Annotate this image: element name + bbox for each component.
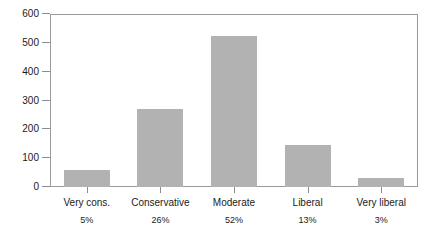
y-axis-tick-label: 600 xyxy=(22,8,39,20)
y-axis-tick-mark xyxy=(42,13,50,14)
x-axis-tick: Liberal13% xyxy=(271,187,345,242)
x-axis-tick-mark xyxy=(87,187,88,193)
x-axis-percent-label: 26% xyxy=(151,215,169,226)
y-axis: 0100200300400500600 xyxy=(0,0,50,242)
y-axis-tick-label: 0 xyxy=(33,181,39,193)
x-axis-tick-mark xyxy=(160,187,161,193)
x-axis-tick-mark xyxy=(308,187,309,193)
x-axis-category-label: Liberal xyxy=(293,197,323,209)
x-axis-tick-mark xyxy=(234,187,235,193)
x-axis-category-label: Conservative xyxy=(131,197,189,209)
x-axis-percent-label: 3% xyxy=(375,215,388,226)
y-axis-tick-mark xyxy=(42,128,50,129)
y-axis-tick-label: 200 xyxy=(22,123,39,135)
bars-layer xyxy=(50,14,418,187)
x-axis-percent-label: 13% xyxy=(299,215,317,226)
x-axis-percent-label: 52% xyxy=(225,215,243,226)
bar-liberal[interactable] xyxy=(285,145,331,187)
bar-very-cons[interactable] xyxy=(64,170,110,187)
x-axis-tick: Conservative26% xyxy=(124,187,198,242)
bar-slot xyxy=(124,14,198,187)
y-axis-tick: 400 xyxy=(0,66,50,78)
y-axis-tick: 300 xyxy=(0,95,50,107)
bar-slot xyxy=(344,14,418,187)
bar-chart-figure: 0100200300400500600 Very cons.5%Conserva… xyxy=(0,0,437,242)
bar-slot xyxy=(50,14,124,187)
y-axis-tick-label: 400 xyxy=(22,66,39,78)
x-axis-tick: Moderate52% xyxy=(197,187,271,242)
y-axis-tick: 600 xyxy=(0,8,50,20)
y-axis-tick-label: 500 xyxy=(22,37,39,49)
x-axis-category-label: Very liberal xyxy=(356,197,405,209)
x-axis-tick-mark xyxy=(381,187,382,193)
x-axis-category-label: Very cons. xyxy=(63,197,110,209)
bar-very-liberal[interactable] xyxy=(358,178,404,187)
y-axis-tick-mark xyxy=(42,186,50,187)
y-axis-tick-mark xyxy=(42,71,50,72)
x-axis-category-label: Moderate xyxy=(213,197,255,209)
y-axis-tick-mark xyxy=(42,157,50,158)
bar-conservative[interactable] xyxy=(137,109,183,187)
y-axis-tick-label: 100 xyxy=(22,152,39,164)
x-axis-tick: Very liberal3% xyxy=(344,187,418,242)
bar-moderate[interactable] xyxy=(211,36,257,187)
x-axis-percent-label: 5% xyxy=(80,215,93,226)
y-axis-tick: 0 xyxy=(0,181,50,193)
bar-slot xyxy=(271,14,345,187)
y-axis-tick: 100 xyxy=(0,152,50,164)
y-axis-tick: 500 xyxy=(0,37,50,49)
x-axis: Very cons.5%Conservative26%Moderate52%Li… xyxy=(50,187,418,242)
x-axis-tick: Very cons.5% xyxy=(50,187,124,242)
bar-slot xyxy=(197,14,271,187)
y-axis-tick-mark xyxy=(42,100,50,101)
y-axis-tick-label: 300 xyxy=(22,95,39,107)
y-axis-tick-mark xyxy=(42,42,50,43)
y-axis-tick: 200 xyxy=(0,123,50,135)
